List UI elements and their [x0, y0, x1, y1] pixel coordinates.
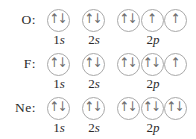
orbital-label-2s: 2s — [82, 76, 106, 91]
orbital-circle: ↑ — [164, 9, 187, 32]
orbital-label-2s: 2s — [82, 32, 106, 47]
orbital-circle: ↑↓ — [141, 97, 164, 120]
orbital-label-1s: 1s — [47, 32, 71, 47]
down-arrow-icon: ↓ — [58, 13, 68, 26]
up-arrow-icon: ↑ — [50, 57, 58, 70]
orbital-circle: ↑ — [164, 53, 187, 76]
orbital-group-2p: ↑↓ ↑↓ ↑ — [117, 52, 189, 76]
element-row: F: ↑↓ ↑↓ ↑↓ ↑↓ ↑ 1s 2s 2p — [0, 52, 196, 91]
up-arrow-icon: ↑ — [171, 57, 181, 70]
orbital-group-2p: ↑↓ ↑ ↑ — [117, 8, 189, 32]
down-arrow-icon: ↓ — [93, 13, 103, 26]
up-arrow-icon: ↑ — [167, 101, 175, 114]
orbital-diagram: O: ↑↓ ↑↓ ↑↓ ↑ ↑ 1s 2s 2p F: ↑↓ ↑↓ ↑↓ ↑↓ … — [0, 0, 196, 135]
orbital-circle: ↑↓ — [82, 53, 105, 76]
orbital-group-1s: ↑↓ — [47, 96, 71, 120]
orbital-group-2s: ↑↓ — [82, 52, 106, 76]
orbital-group-2s: ↑↓ — [82, 96, 106, 120]
orbital-circle: ↑↓ — [164, 97, 187, 120]
element-row: O: ↑↓ ↑↓ ↑↓ ↑ ↑ 1s 2s 2p — [0, 8, 196, 47]
up-arrow-icon: ↑ — [85, 57, 93, 70]
down-arrow-icon: ↓ — [151, 57, 161, 70]
orbital-label-1s: 1s — [47, 76, 71, 91]
orbital-group-1s: ↑↓ — [47, 52, 71, 76]
orbital-label-2p: 2p — [117, 76, 189, 91]
orbital-label-2s: 2s — [82, 120, 106, 135]
orbital-group-2p: ↑↓ ↑↓ ↑↓ — [117, 96, 189, 120]
up-arrow-icon: ↑ — [120, 101, 128, 114]
element-label: Ne: — [0, 96, 36, 120]
up-arrow-icon: ↑ — [50, 101, 58, 114]
orbital-circle: ↑↓ — [117, 9, 140, 32]
up-arrow-icon: ↑ — [147, 13, 157, 26]
down-arrow-icon: ↓ — [175, 101, 185, 114]
orbital-circle: ↑↓ — [117, 53, 140, 76]
up-arrow-icon: ↑ — [120, 57, 128, 70]
element-label: F: — [0, 52, 36, 76]
orbital-group-1s: ↑↓ — [47, 8, 71, 32]
down-arrow-icon: ↓ — [128, 13, 138, 26]
down-arrow-icon: ↓ — [151, 101, 161, 114]
up-arrow-icon: ↑ — [85, 13, 93, 26]
element-label: O: — [0, 8, 36, 32]
orbital-label-1s: 1s — [47, 120, 71, 135]
orbital-label-2p: 2p — [117, 120, 189, 135]
up-arrow-icon: ↑ — [171, 13, 181, 26]
spacer — [0, 32, 36, 47]
orbital-circle: ↑↓ — [117, 97, 140, 120]
down-arrow-icon: ↓ — [58, 101, 68, 114]
spacer — [0, 76, 36, 91]
orbital-circle: ↑↓ — [141, 53, 164, 76]
orbital-circle: ↑↓ — [82, 9, 105, 32]
orbital-circle: ↑ — [141, 9, 164, 32]
down-arrow-icon: ↓ — [128, 57, 138, 70]
up-arrow-icon: ↑ — [85, 101, 93, 114]
up-arrow-icon: ↑ — [143, 57, 151, 70]
orbital-label-2p: 2p — [117, 32, 189, 47]
down-arrow-icon: ↓ — [93, 101, 103, 114]
spacer — [0, 120, 36, 135]
down-arrow-icon: ↓ — [128, 101, 138, 114]
element-row: Ne: ↑↓ ↑↓ ↑↓ ↑↓ ↑↓ 1s 2s 2p — [0, 96, 196, 135]
down-arrow-icon: ↓ — [93, 57, 103, 70]
orbital-circle: ↑↓ — [47, 53, 70, 76]
down-arrow-icon: ↓ — [58, 57, 68, 70]
up-arrow-icon: ↑ — [50, 13, 58, 26]
up-arrow-icon: ↑ — [143, 101, 151, 114]
orbital-circle: ↑↓ — [47, 97, 70, 120]
orbital-group-2s: ↑↓ — [82, 8, 106, 32]
orbital-circle: ↑↓ — [47, 9, 70, 32]
up-arrow-icon: ↑ — [120, 13, 128, 26]
orbital-circle: ↑↓ — [82, 97, 105, 120]
